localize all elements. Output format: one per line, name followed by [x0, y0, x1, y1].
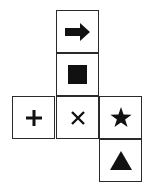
face-triangle	[99, 139, 142, 182]
triangle-icon	[110, 151, 132, 170]
face-plus	[12, 96, 55, 139]
face-square	[56, 53, 99, 96]
arrow-right-icon	[65, 23, 91, 41]
star-icon	[110, 107, 132, 128]
face-cross	[56, 96, 99, 139]
plus-icon	[26, 110, 42, 126]
face-star	[99, 96, 142, 139]
cross-icon	[70, 110, 86, 126]
face-arrow	[56, 10, 99, 53]
filled-square-icon	[68, 65, 87, 84]
